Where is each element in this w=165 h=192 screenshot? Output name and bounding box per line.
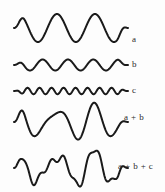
wave-path-a [14, 14, 128, 42]
wave-label-a-plus-b-plus-c: a + b + c [118, 162, 153, 171]
wave-label-b: b [132, 60, 137, 69]
wave-path-a-plus-b [14, 103, 128, 140]
wave-superposition-figure: a b c a + b a + b + c [0, 0, 165, 192]
wave-paths-group [14, 14, 128, 187]
wave-path-c [14, 88, 128, 94]
wave-path-b [14, 60, 128, 71]
wave-path-a-plus-b-plus-c [14, 151, 128, 187]
wave-label-a: a [132, 35, 136, 44]
wave-label-c: c [132, 86, 136, 95]
wave-label-a-plus-b: a + b [124, 113, 144, 122]
